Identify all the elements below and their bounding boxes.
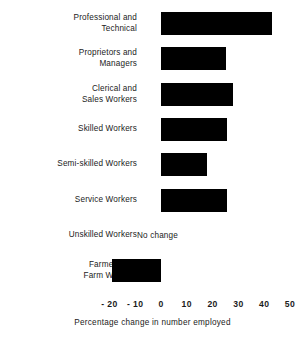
category-label: Skilled Workers (0, 124, 137, 134)
no-change-annotation: No change (137, 224, 178, 247)
category-label: Semi-skilled Workers (0, 159, 137, 169)
chart-row: Professional and Technical (0, 12, 305, 35)
category-label: Professional and Technical (0, 13, 137, 34)
x-axis-tick-label: - 20 (101, 299, 117, 309)
chart-row: Semi-skilled Workers (0, 153, 305, 176)
chart-row: Farmers and Farm Workers (0, 259, 305, 282)
bar (112, 259, 161, 282)
x-axis-tick-label: 50 (285, 299, 295, 309)
x-axis-tick-label: - 10 (127, 299, 143, 309)
bar (161, 189, 227, 212)
bar (161, 83, 233, 106)
bar (161, 12, 272, 35)
bar (161, 47, 226, 70)
x-axis-tick-label: 10 (182, 299, 192, 309)
x-axis-title: Percentage change in number employed (0, 318, 305, 327)
chart-row: Clerical and Sales Workers (0, 83, 305, 106)
x-axis-tick-label: 20 (207, 299, 217, 309)
x-axis-tick-labels: - 20- 1001020304050 (0, 299, 305, 313)
x-axis-tick-label: 0 (158, 299, 163, 309)
category-label: Proprietors and Managers (0, 48, 137, 69)
x-axis-tick-label: 40 (259, 299, 269, 309)
chart-row: Unskilled WorkersNo change (0, 224, 305, 247)
bar (161, 153, 207, 176)
bar (161, 118, 227, 141)
category-label: Unskilled Workers (0, 230, 137, 240)
chart-row: Skilled Workers (0, 118, 305, 141)
chart-row: Proprietors and Managers (0, 47, 305, 70)
bar-chart: Professional and TechnicalProprietors an… (0, 0, 305, 340)
chart-row: Service Workers (0, 189, 305, 212)
category-label: Clerical and Sales Workers (0, 84, 137, 105)
x-axis-tick-label: 30 (233, 299, 243, 309)
category-label: Service Workers (0, 195, 137, 205)
